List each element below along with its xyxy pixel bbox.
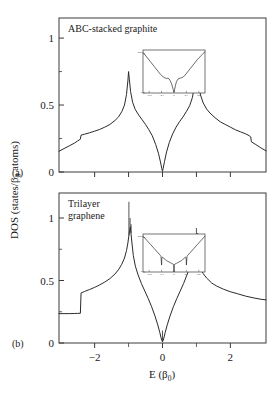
- inset-x-label-b-3: 0.1: [185, 273, 189, 276]
- inset-frame-a: [143, 50, 205, 93]
- plot-title-a: ABC-stacked graphite: [68, 23, 158, 34]
- inset-b: −0.2−0.100.10.20.050: [138, 234, 205, 276]
- x-tick-label-2: 2: [228, 351, 234, 363]
- x-axis-label: E (β0): [149, 368, 175, 383]
- inset-x-label-a-3: 0.1: [185, 94, 189, 97]
- dos-figure: 00.51(a)ABC-stacked graphite00.51−202(b)…: [0, 0, 280, 402]
- inset-y-label-a-top: 0.05: [138, 51, 143, 54]
- figure-container: 00.51(a)ABC-stacked graphite00.51−202(b)…: [0, 0, 280, 402]
- inset-x-label-b-2: 0: [173, 273, 175, 276]
- y-tick-label-a-0: 0: [49, 166, 55, 178]
- y-tick-label-a-2: 1: [49, 32, 55, 44]
- y-axis-label: DOS (states/β0 atoms): [8, 141, 23, 239]
- panel-b: 00.51−202(b)Trilayergraphene: [12, 193, 266, 363]
- panel-a: 00.51(a)ABC-stacked graphite: [12, 18, 266, 179]
- y-tick-label-b-2: 1: [49, 212, 55, 224]
- inset-a: −0.2−0.100.10.20.050: [138, 50, 205, 97]
- inset-x-label-b-0: −0.2: [147, 273, 152, 276]
- x-tick-label-1: 0: [160, 351, 166, 363]
- inset-y-label-a-bot: 0: [141, 91, 143, 94]
- panel-label-b: (b): [12, 338, 24, 350]
- y-tick-label-b-1: 0.5: [40, 275, 54, 287]
- x-tick-label-0: −2: [89, 351, 101, 363]
- inset-x-label-b-4: 0.2: [197, 273, 201, 276]
- inset-x-label-a-0: −0.2: [147, 94, 152, 97]
- inset-x-label-b-1: −0.1: [159, 273, 164, 276]
- y-tick-label-b-0: 0: [49, 337, 55, 349]
- inset-y-label-b-top: 0.05: [138, 235, 143, 238]
- inset-y-label-b-bot: 0: [141, 270, 143, 273]
- plot-title-b: Trilayer: [68, 198, 101, 209]
- inset-x-label-a-2: 0: [173, 94, 175, 97]
- y-tick-label-a-1: 0.5: [40, 99, 54, 111]
- plot-title2-b: graphene: [68, 210, 105, 221]
- y-axis-label-text: DOS (states/β0 atoms): [8, 141, 23, 239]
- inset-x-label-a-1: −0.1: [159, 94, 164, 97]
